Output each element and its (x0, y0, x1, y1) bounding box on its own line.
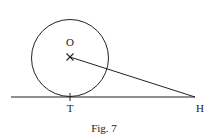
point-label-t: T (67, 102, 74, 114)
figure-caption: Fig. 7 (91, 122, 117, 134)
circle (32, 20, 109, 97)
point-label-h: H (196, 102, 204, 114)
geometry-figure: O T H Fig. 7 (0, 0, 216, 137)
center-cross-icon (67, 54, 74, 61)
segment-oh (70, 57, 195, 97)
point-label-o: O (66, 36, 74, 48)
